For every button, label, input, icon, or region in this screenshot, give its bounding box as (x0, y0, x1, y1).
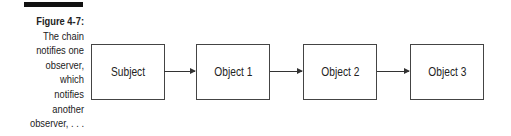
caption-line: observer, (13, 58, 84, 73)
arrow-icon (164, 71, 195, 72)
node-label: Subject (111, 65, 145, 79)
caption-line: notifies one (13, 43, 84, 58)
arrow-icon (270, 71, 302, 72)
node-object-2: Object 2 (303, 44, 377, 100)
node-object-1: Object 1 (196, 44, 270, 100)
caption-bar (24, 2, 83, 7)
caption-line: observer, . . . (13, 116, 84, 131)
caption-line: The chain (13, 29, 84, 44)
caption-title: Figure 4-7: (13, 14, 84, 29)
node-label: Object 3 (428, 65, 466, 79)
node-subject: Subject (91, 44, 165, 100)
node-label: Object 2 (321, 65, 359, 79)
caption-line: notifies (13, 87, 84, 102)
figure-caption: Figure 4-7: The chain notifies one obser… (13, 14, 84, 131)
node-object-3: Object 3 (410, 44, 484, 100)
caption-line: another (13, 102, 84, 117)
caption-line: which (13, 72, 84, 87)
node-label: Object 1 (214, 65, 252, 79)
arrow-icon (377, 71, 409, 72)
